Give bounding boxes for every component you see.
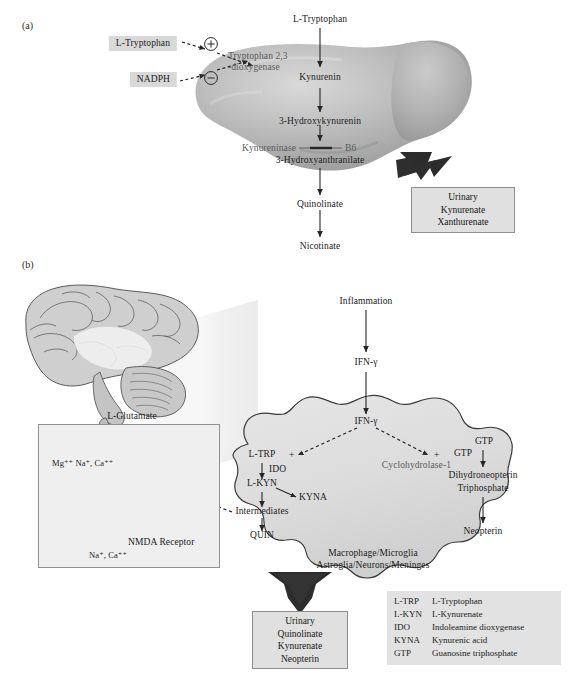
cell-type-line2: Astroglia/Neurons/Meninges: [317, 560, 430, 571]
inset-label-ions-bottom: Na⁺, Ca⁺⁺: [89, 551, 127, 561]
legend-row: GTP Guanosine triphosphate: [393, 647, 529, 660]
legend-row: L-KYN L-Kynurenate: [393, 608, 529, 621]
left-branch-substrate-l-trp: L-TRP: [249, 449, 276, 460]
plus-sign-circle: [205, 38, 218, 51]
legend-abbr: L-KYN: [393, 608, 431, 621]
panel-b-output-line2: Quinolinate: [259, 628, 341, 641]
legend-meaning: Indoleamine dioxygenase: [431, 621, 529, 634]
figure-root: (a) L-Tryptophan L-Tryptophan NADPH Tryp…: [0, 0, 574, 691]
right-branch-substrate-gtp-top: GTP: [475, 436, 493, 447]
panel-b-cytokine-outside: IFN-γ: [354, 357, 377, 368]
legend-meaning: L-Tryptophan: [431, 595, 529, 608]
diagram-graphics: [0, 0, 574, 691]
cell-type-line1: Macrophage/Microglia: [328, 548, 418, 559]
legend-abbr: GTP: [393, 647, 431, 660]
left-branch-side-product-kyna: KYNA: [299, 492, 327, 503]
legend-abbr: L-TRP: [393, 595, 431, 608]
inset-label-nmda-receptor: NMDA Receptor: [128, 537, 194, 548]
panel-b-cytokine-inside: IFN-γ: [354, 416, 377, 427]
enzyme-kynureninase: Kynureninase: [242, 143, 296, 154]
legend-row: KYNA Kynurenic acid: [393, 634, 529, 647]
panel-b-letter: (b): [22, 259, 34, 270]
panel-a-node-nicotinate: Nicotinate: [300, 241, 341, 252]
legend-meaning: Kynurenic acid: [431, 634, 529, 647]
legend-abbr: KYNA: [393, 634, 431, 647]
inset-label-ions-top: Mg⁺⁺ Na⁺, Ca⁺⁺: [52, 459, 113, 469]
panel-a-letter: (a): [22, 20, 33, 31]
panel-a-node-quinolinate: Quinolinate: [297, 199, 343, 210]
left-branch-intermediates: Intermediates: [236, 506, 289, 517]
right-branch-enzyme-cyclohydrolase-1: Cyclohydrolase-1: [382, 460, 451, 471]
panel-a-output-line3: Xanthurenate: [418, 216, 508, 229]
panel-b-stimulus-inflammation: Inflammation: [340, 296, 393, 307]
panel-a-output-arrow: [396, 152, 452, 180]
regulator-l-tryptophan: L-Tryptophan: [109, 36, 177, 51]
plus-sign-left-branch: +: [289, 450, 294, 461]
legend-row: IDO Indoleamine dioxygenase: [393, 621, 529, 634]
cofactor-b6: B6: [345, 143, 356, 154]
legend-abbr: IDO: [393, 621, 431, 634]
panel-a-output-line2: Kynurenate: [418, 204, 508, 217]
panel-a-output-line1: Urinary: [418, 191, 508, 204]
minus-sign-circle: [205, 72, 218, 85]
right-branch-end-product-neopterin: Neopterin: [464, 526, 503, 537]
ifn-branch-dashed: [298, 428, 428, 455]
left-branch-end-product-quin: QUIN: [250, 530, 274, 541]
legend-meaning: L-Kynurenate: [431, 608, 529, 621]
regulator-nadph: NADPH: [130, 72, 177, 87]
legend-body: L-TRP L-Tryptophan L-KYN L-Kynurenate ID…: [393, 595, 529, 660]
panel-b-output-arrow: [268, 572, 332, 614]
abbreviation-legend: L-TRP L-Tryptophan L-KYN L-Kynurenate ID…: [387, 591, 561, 665]
legend-row: L-TRP L-Tryptophan: [393, 595, 529, 608]
left-branch-product-l-kyn: L-KYN: [247, 478, 277, 489]
panel-a-node-l-tryptophan: L-Tryptophan: [293, 14, 347, 25]
panel-a-urinary-output-box: Urinary Kynurenate Xanthurenate: [411, 187, 515, 233]
enzyme-tryptophan-dioxygenase-line2: -dioxygenase: [228, 62, 280, 73]
inset-label-l-glutamate: L-Glutamate: [107, 411, 157, 422]
right-branch-substrate-gtp: GTP: [454, 448, 472, 459]
left-branch-enzyme-ido: IDO: [269, 464, 286, 475]
right-branch-product-line1: Dihydroneopterin: [448, 470, 517, 481]
panel-b-output-line1: Urinary: [259, 615, 341, 628]
panel-a-node-kynurenin: Kynurenin: [299, 72, 341, 83]
legend-table: L-TRP L-Tryptophan L-KYN L-Kynurenate ID…: [393, 595, 529, 660]
panel-a-node-3-hydroxyanthranilate: 3-Hydroxyanthranilate: [276, 155, 365, 166]
panel-b-output-line3: Kynurenate: [259, 640, 341, 653]
legend-meaning: Guanosine triphosphate: [431, 647, 529, 660]
panel-b-output-line4: Neopterin: [259, 653, 341, 666]
right-branch-product-line2: Triphosphate: [458, 483, 509, 494]
panel-b-urinary-output-box: Urinary Quinolinate Kynurenate Neopterin: [252, 611, 348, 669]
enzyme-tryptophan-dioxygenase-line1: Tryptophan 2,3: [228, 51, 288, 62]
panel-a-node-3-hydroxykynurenin: 3-Hydroxykynurenin: [279, 116, 361, 127]
